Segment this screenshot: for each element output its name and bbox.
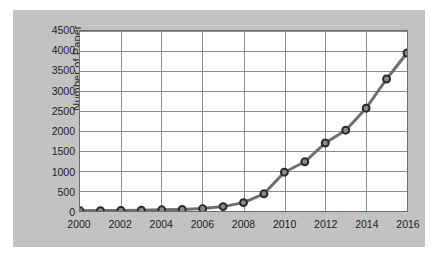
x-axis-tick-labels: 200020022004200620082010201220142016 bbox=[13, 10, 425, 247]
x-tick-label: 2000 bbox=[57, 218, 101, 230]
x-tick-label: 2008 bbox=[222, 218, 266, 230]
x-tick-label: 2006 bbox=[180, 218, 224, 230]
x-tick-label: 2004 bbox=[139, 218, 183, 230]
x-tick-label: 2002 bbox=[98, 218, 142, 230]
chart-figure: Number of Paper 050010001500200025003000… bbox=[0, 0, 437, 260]
x-tick-label: 2012 bbox=[304, 218, 348, 230]
x-tick-label: 2010 bbox=[263, 218, 307, 230]
x-tick-label: 2014 bbox=[345, 218, 389, 230]
x-tick-label: 2016 bbox=[386, 218, 430, 230]
chart-panel: Number of Paper 050010001500200025003000… bbox=[13, 10, 425, 247]
